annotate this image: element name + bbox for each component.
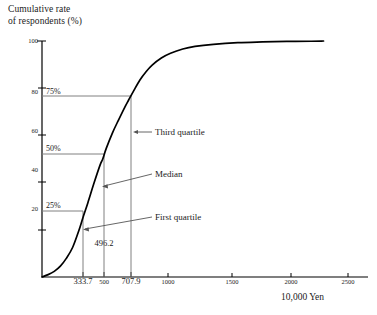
leader-median xyxy=(104,174,152,186)
leader-first-quartile xyxy=(85,217,152,229)
cumulative-curve xyxy=(42,41,324,277)
chart-canvas xyxy=(0,0,377,315)
annotation-leaders xyxy=(83,130,152,232)
cumulative-distribution-chart: Cumulative rate of respondents (%) 10,00… xyxy=(0,0,377,315)
x-axis-ticks xyxy=(83,272,348,277)
